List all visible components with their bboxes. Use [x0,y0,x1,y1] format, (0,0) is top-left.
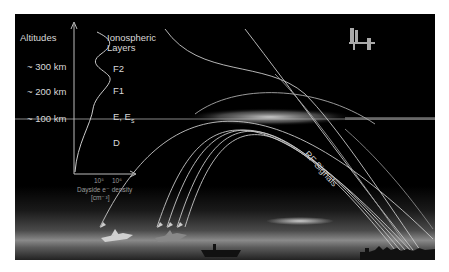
rf-signal-curves [100,29,433,250]
altitudes-heading: Altitudes [20,32,56,43]
altitude-300km: ~ 300 km [27,61,66,72]
signal-arrowheads [100,222,183,228]
cloud [266,217,334,225]
layer-f2: F2 [113,63,124,74]
layer-d: D [113,137,120,148]
fighter-aircraft-icon [155,230,187,242]
density-tick-1e6: 10⁶ [112,177,122,185]
altitude-200km: ~ 200 km [27,86,66,97]
diagram-graphics [15,14,435,260]
ionosphere-diagram: Altitudes Ionospheric Layers ~ 300 km ~ … [15,14,435,260]
density-tick-1e5: 10⁵ [94,177,104,185]
layer-e-label: E, E [113,111,131,122]
density-axis-unit: [cm⁻³] [91,194,109,202]
density-axis-label: Dayside e⁻ density [77,186,132,194]
aircraft-carrier-icon [201,244,241,257]
jet-aircraft-icon [101,229,133,242]
city-skyline-icon [360,246,435,260]
altitude-100km: ~ 100 km [27,113,66,124]
layer-e-es: E, Es [113,111,134,126]
layer-es-subscript: s [131,117,135,124]
layers-heading-line2: Layers [107,42,136,53]
layer-f1: F1 [113,85,124,96]
space-station-icon [349,28,375,50]
